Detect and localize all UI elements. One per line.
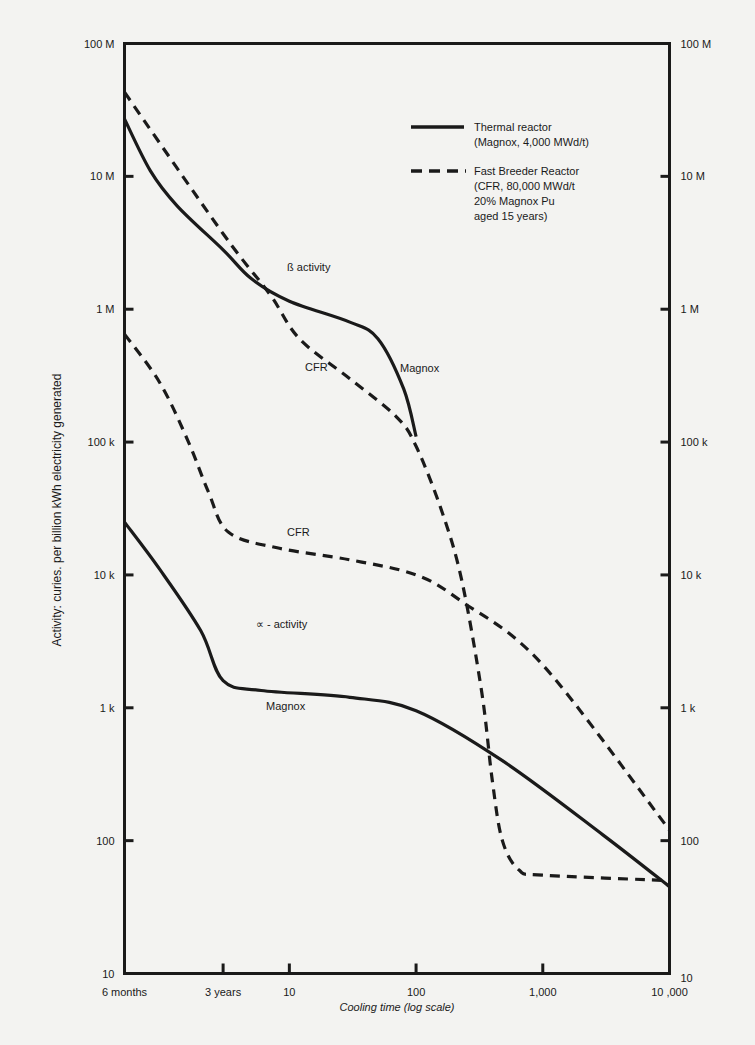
curve-annotation: Magnox	[400, 362, 440, 374]
x-tick-label: 6 months	[102, 986, 148, 998]
y-tick-label-right: 100 k	[681, 436, 708, 448]
curve-annotation: CFR	[305, 361, 328, 373]
chart-canvas: 100 M10 M1 M100 k10 k1 k10010 100 M10 M1…	[0, 0, 755, 1045]
y-tick-label-right: 1 M	[681, 303, 699, 315]
x-tick-label: 3 years	[205, 986, 242, 998]
y-tick-label-right: 100	[681, 835, 699, 847]
magnox-activity-curve	[125, 522, 670, 887]
legend-dashed-line-2: (CFR, 80,000 MWd/t	[474, 180, 575, 192]
x-tick-label: 10 ,000	[651, 986, 688, 998]
y-tick-label-left: 1 M	[96, 303, 114, 315]
y-tick-label-right: 1 k	[681, 702, 696, 714]
y-tick-label-right: 10 k	[681, 569, 702, 581]
x-tick-label: 1,000	[529, 986, 557, 998]
y-tick-label-left: 100 M	[84, 38, 115, 50]
curve-annotation: CFR	[287, 526, 310, 538]
legend: Thermal reactor (Magnox, 4,000 MWd/t) Fa…	[411, 121, 589, 222]
y-tick-label-left: 100	[96, 835, 114, 847]
y-tick-label-right: 10	[681, 972, 693, 984]
curve-annotation: Magnox	[266, 700, 306, 712]
series-curves	[125, 92, 670, 887]
y-axis-title: Activity: curies. per billion kWh electr…	[50, 374, 64, 647]
y-tick-label-left: 10 M	[90, 170, 114, 182]
magnox-activity-curve	[125, 119, 417, 437]
y-tick-label-right: 10 M	[681, 170, 705, 182]
legend-dashed-line-4: aged 15 years)	[474, 210, 547, 222]
curve-annotation: ß activity	[287, 261, 331, 273]
x-axis: 6 months3 years101001,00010 ,000	[102, 964, 688, 998]
legend-solid-line-1: Thermal reactor	[474, 121, 552, 133]
legend-dashed-line-3: 20% Magnox Pu	[474, 195, 555, 207]
x-tick-label: 100	[407, 986, 425, 998]
x-axis-title: Cooling time (log scale)	[340, 1001, 455, 1013]
y-tick-label-left: 1 k	[100, 702, 115, 714]
legend-solid-line-2: (Magnox, 4,000 MWd/t)	[474, 136, 589, 148]
cfr-activity-curve	[125, 334, 670, 830]
x-tick-label: 10	[283, 986, 295, 998]
y-tick-label-left: 100 k	[88, 436, 115, 448]
plot-frame	[125, 44, 670, 974]
y-tick-label-left: 10 k	[94, 569, 115, 581]
legend-dashed-line-1: Fast Breeder Reactor	[474, 165, 579, 177]
y-tick-label-right: 100 M	[681, 38, 712, 50]
y-tick-label-left: 10	[102, 968, 114, 980]
curve-annotations: ß activityCFRMagnoxCFR∝ - activityMagnox	[256, 261, 440, 712]
y-axis-left: 100 M10 M1 M100 k10 k1 k10010	[84, 38, 134, 980]
curve-annotation: ∝ - activity	[256, 618, 308, 630]
